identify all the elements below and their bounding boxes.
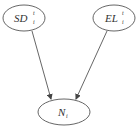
node-n-label: N [57,106,66,118]
node-sd: SD t i [3,5,45,31]
edge-sd-to-n [32,31,51,99]
node-sd-label: SD [14,12,28,24]
edge-el-to-n [76,31,107,99]
node-el-label: EL [104,12,118,24]
node-n: N i [38,99,90,125]
diagram-canvas: SD t i EL t i N i [0,0,139,128]
node-el: EL t i [93,5,135,31]
